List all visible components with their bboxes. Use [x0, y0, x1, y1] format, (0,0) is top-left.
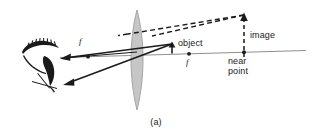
near-point-dot-icon	[242, 50, 246, 54]
focal-length-left-label: f	[79, 36, 82, 46]
refracted-ray-lower	[68, 44, 172, 83]
virtual-ray-upper	[128, 15, 244, 34]
near-point-label-line1: near	[228, 56, 246, 66]
object-label: object	[178, 38, 203, 48]
optics-figure: object image f f near point (a)	[0, 0, 312, 134]
image-label: image	[250, 30, 275, 40]
image-arrow-icon	[240, 13, 248, 22]
eye-icon	[22, 38, 59, 93]
virtual-ray-lower	[152, 15, 244, 36]
converging-lens-icon	[131, 10, 143, 110]
figure-canvas	[0, 0, 312, 134]
focal-point-right-dot-icon	[187, 52, 191, 56]
refracted-ray-lower-arrowhead	[63, 79, 74, 86]
focal-point-left-dot-icon	[86, 55, 90, 59]
focal-length-right-label: f	[186, 57, 189, 67]
virtual-ray-extension	[118, 34, 128, 36]
figure-caption: (a)	[0, 117, 312, 127]
near-point-label-line2: point	[228, 66, 248, 76]
